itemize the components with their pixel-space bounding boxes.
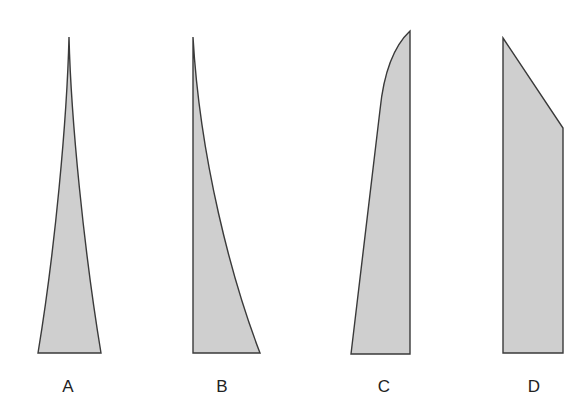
shapes-svg: A B C D [0,0,588,419]
diagram-canvas: A B C D [0,0,588,419]
label-c: C [378,377,390,396]
shape-c [351,31,410,354]
shape-b-group: B [193,37,260,396]
shape-a [38,37,101,353]
shape-a-group: A [38,37,101,396]
label-b: B [216,377,227,396]
label-d: D [528,377,540,396]
label-a: A [62,377,74,396]
shape-d [503,38,563,353]
shape-d-group: D [503,38,563,396]
shape-b [193,37,260,353]
shape-c-group: C [351,31,410,396]
